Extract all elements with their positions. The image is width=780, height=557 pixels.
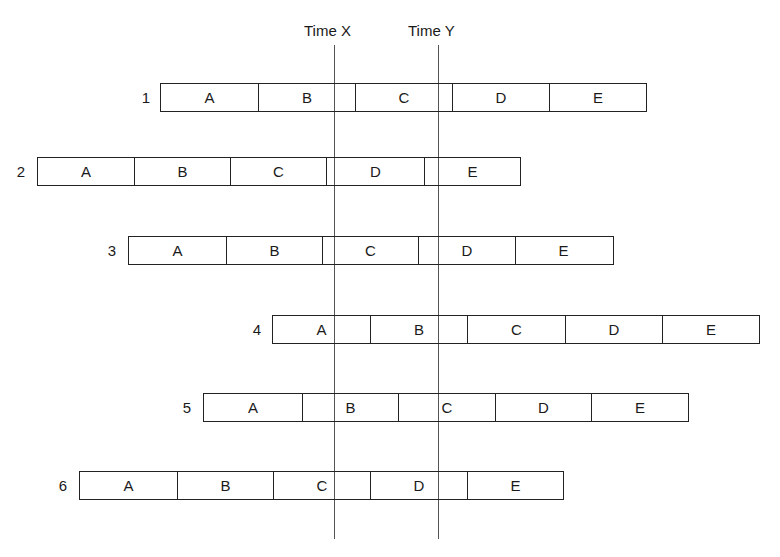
segment-d: D <box>418 237 515 264</box>
segment-d: D <box>452 84 549 111</box>
segment-e: E <box>549 84 646 111</box>
row-2: 2 A B C D E <box>0 157 780 186</box>
row-3: 3 A B C D E <box>0 236 780 265</box>
row-number: 1 <box>130 89 150 107</box>
segment-b: B <box>134 158 230 185</box>
time-x-line <box>334 45 335 539</box>
time-x-label: Time X <box>304 22 351 40</box>
row-4: 4 A B C D E <box>0 315 780 344</box>
row-number: 2 <box>5 163 25 181</box>
time-y-label: Time Y <box>408 22 455 40</box>
row-number: 4 <box>241 321 261 339</box>
segment-b: B <box>370 316 467 343</box>
segment-b: B <box>177 472 273 499</box>
segment-c: C <box>230 158 326 185</box>
segment-a: A <box>204 394 302 421</box>
segment-e: E <box>467 472 563 499</box>
segment-a: A <box>80 472 177 499</box>
segment-b: B <box>226 237 322 264</box>
segment-d: D <box>495 394 591 421</box>
segment-c: C <box>322 237 418 264</box>
segment-c: C <box>467 316 565 343</box>
segment-d: D <box>326 158 424 185</box>
segment-bar: A B C D E <box>37 157 521 186</box>
segment-bar: A B C D E <box>79 471 564 500</box>
segment-e: E <box>662 316 759 343</box>
segment-d: D <box>370 472 467 499</box>
segment-e: E <box>515 237 611 264</box>
segment-c: C <box>355 84 452 111</box>
segment-a: A <box>38 158 134 185</box>
segment-b: B <box>302 394 398 421</box>
segment-a: A <box>161 84 258 111</box>
segment-c: C <box>273 472 370 499</box>
row-number: 6 <box>47 477 67 495</box>
segment-b: B <box>258 84 355 111</box>
row-number: 5 <box>171 399 191 417</box>
segment-c: C <box>398 394 495 421</box>
segment-e: E <box>591 394 688 421</box>
segment-bar: A B C D E <box>128 236 614 265</box>
segment-bar: A B C D E <box>203 393 689 422</box>
segment-bar: A B C D E <box>160 83 647 112</box>
row-1: 1 A B C D E <box>0 83 780 112</box>
row-5: 5 A B C D E <box>0 393 780 422</box>
segment-bar: A B C D E <box>272 315 760 344</box>
segment-a: A <box>129 237 226 264</box>
time-y-line <box>438 45 439 539</box>
segment-a: A <box>273 316 370 343</box>
row-6: 6 A B C D E <box>0 471 780 500</box>
segment-e: E <box>424 158 520 185</box>
segment-d: D <box>565 316 662 343</box>
row-number: 3 <box>96 242 116 260</box>
